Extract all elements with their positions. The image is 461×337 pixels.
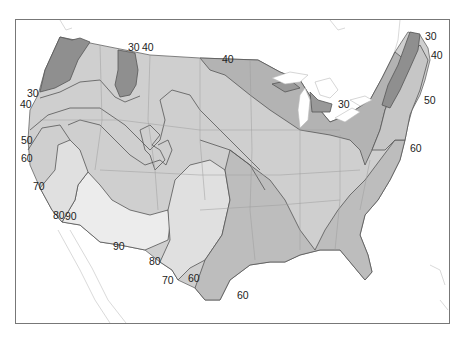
contour-label: 80	[149, 255, 161, 267]
contour-label: 60	[410, 142, 422, 154]
contour-label: 40	[142, 41, 154, 53]
contour-label: 60	[21, 152, 33, 164]
contour-label: 70	[162, 274, 174, 286]
contour-label: 40	[20, 98, 32, 110]
isoline-map: 30 40 40 30 40 50 30 60 30 40 50 60 70 8…	[0, 0, 461, 337]
contour-label: 30	[128, 41, 140, 53]
contour-label: 80	[53, 209, 65, 221]
contour-label: 60	[237, 289, 249, 301]
contour-label: 30	[338, 98, 350, 110]
contour-label: 90	[113, 240, 125, 252]
map-canvas: 30 40 40 30 40 50 30 60 30 40 50 60 70 8…	[0, 0, 461, 337]
contour-label: 50	[424, 94, 436, 106]
contour-label: 60	[188, 272, 200, 284]
contour-label: 90	[65, 210, 77, 222]
contour-label: 70	[33, 180, 45, 192]
contour-label: 30	[425, 30, 437, 42]
contour-label: 40	[431, 49, 443, 61]
contour-label: 50	[21, 134, 33, 146]
contour-label: 40	[222, 53, 234, 65]
